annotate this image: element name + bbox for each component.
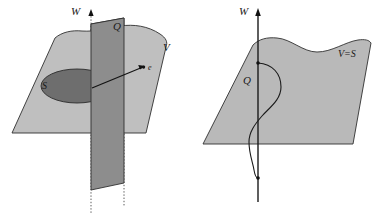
q-curve-bottom-endpoint-dot xyxy=(256,176,260,180)
label-v-left: V xyxy=(163,41,171,53)
w-axis-arrowhead-right xyxy=(255,8,261,16)
label-w-right: W xyxy=(239,5,249,17)
label-q-right: Q xyxy=(243,74,251,86)
label-q-left: Q xyxy=(113,20,121,32)
vector-e-endpoint-dot xyxy=(142,66,145,69)
w-axis-arrowhead xyxy=(88,9,93,16)
left-diagram-panel: W Q V S e xyxy=(0,0,193,220)
label-w-left: W xyxy=(71,5,81,17)
right-diagram-panel: W Q V=S xyxy=(193,0,386,220)
q-curve-top-endpoint-dot xyxy=(256,61,260,65)
label-s-left: S xyxy=(42,80,47,91)
label-vs-right: V=S xyxy=(338,48,356,59)
label-e-left: e xyxy=(148,63,152,72)
q-plane-front-slab xyxy=(91,18,124,190)
math-diagram-figure: W Q V S e W Q V=S xyxy=(0,0,386,220)
